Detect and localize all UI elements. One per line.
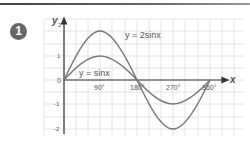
label-2sinx: y = 2sinx xyxy=(125,30,161,40)
x-tick-180: 180° xyxy=(130,84,145,91)
x-axis-label: x xyxy=(229,74,236,85)
x-tick-270: 270° xyxy=(166,84,181,91)
y-tick-minus-1: -1 xyxy=(54,101,60,107)
origin-label: 0 xyxy=(57,77,61,84)
y-tick-minus-2: -2 xyxy=(54,126,60,132)
x-tick-90: 90° xyxy=(94,84,105,91)
sine-chart: y 2 1 0 -1 -2 90° 180° 270° 360° x y = 2… xyxy=(0,0,250,148)
x-tick-360: 360° xyxy=(202,84,217,91)
y-axis-label: y xyxy=(51,15,58,26)
x-axis-arrow-icon xyxy=(222,78,228,83)
label-sinx: y = sinx xyxy=(79,68,110,78)
